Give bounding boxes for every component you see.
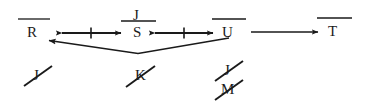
node-label-s: S bbox=[133, 25, 141, 40]
struck-label-m: M bbox=[221, 82, 234, 97]
arrow-u-r-feedback bbox=[49, 38, 229, 54]
arrow-s-u bbox=[155, 28, 213, 39]
struck-label-j-right: J bbox=[224, 63, 230, 78]
node-label-r: R bbox=[27, 25, 37, 40]
struck-label-j-left: J bbox=[33, 68, 39, 83]
node-label-t: T bbox=[328, 24, 337, 39]
node-label-u: U bbox=[222, 25, 233, 40]
arrow-r-s bbox=[62, 28, 121, 39]
struck-label-k: K bbox=[135, 68, 146, 83]
superscript-label-j: J bbox=[133, 8, 139, 23]
diagram-canvas: R J S U T J K J M bbox=[0, 0, 367, 105]
diagram-vector-layer bbox=[0, 0, 367, 105]
